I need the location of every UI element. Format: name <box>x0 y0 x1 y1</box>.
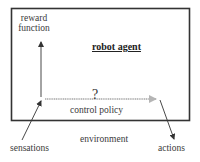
reward-label-line2: function <box>10 23 58 33</box>
unknown-policy-mark: ? <box>92 88 98 102</box>
reward-function-label: reward function <box>10 13 58 33</box>
sensations-label: sensations <box>10 143 49 153</box>
actions-arrow <box>160 100 174 139</box>
environment-label: environment <box>80 134 128 144</box>
actions-label: actions <box>158 143 185 153</box>
reward-label-line1: reward <box>10 13 58 23</box>
robot-agent-title: robot agent <box>92 42 141 52</box>
control-policy-label: control policy <box>70 105 123 115</box>
